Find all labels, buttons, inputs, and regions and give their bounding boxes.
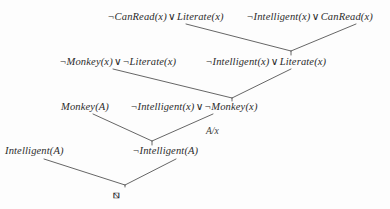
negation-icon: ¬ [206,56,213,67]
disjunction-icon: ∨ [167,11,177,22]
literal-canread-x: CanRead(x) [115,11,167,22]
disjunction-icon: ∨ [311,11,321,22]
edge-intelligent-literate-to-junction2 [232,69,291,98]
edge-intelligent-a-to-junction4 [44,159,125,185]
literal-monkey-a: Monkey(A) [61,101,109,112]
literal-literate-x: Literate(x) [280,56,327,67]
negation-icon: ¬ [108,11,115,22]
clause-intelligent-literate: ¬Intelligent(x)∨Literate(x) [206,57,326,68]
negation-icon: ¬ [123,56,130,67]
literal-intelligent-x: Intelligent(x) [254,11,311,22]
clause-canread-literate: ¬CanRead(x)∨Literate(x) [108,12,224,23]
clause-intelligent-monkey: ¬Intelligent(x)∨¬Monkey(x) [131,102,258,113]
literal-literate-x: Literate(x) [177,11,224,22]
substitution-label: A/x [206,126,219,136]
edge-intelligent-monkey-to-junction3 [152,114,213,141]
edge-monkey-literate-to-junction2 [113,69,232,98]
negation-icon: ¬ [131,101,138,112]
clause-intelligent-canread: ¬Intelligent(x)∨CanRead(x) [247,12,373,23]
literal-canread-x: CanRead(x) [321,11,373,22]
literal-intelligent-a: Intelligent(A) [140,145,199,156]
literal-literate-x: Literate(x) [130,56,177,67]
literal-intelligent-x: Intelligent(x) [213,56,270,67]
clause-intelligent-a: Intelligent(A) [5,146,64,157]
edge-canread-to-junction1 [186,24,291,51]
negation-icon: ¬ [60,56,67,67]
literal-intelligent-x: Intelligent(x) [138,101,195,112]
clause-not-intelligent-a: ¬Intelligent(A) [133,146,198,157]
clause-monkey-literate: ¬Monkey(x)∨¬Literate(x) [60,57,176,68]
disjunction-icon: ∨ [113,56,123,67]
literal-monkey-x: Monkey(x) [67,56,113,67]
disjunction-icon: ∨ [195,101,205,112]
disjunction-icon: ∨ [270,56,280,67]
negation-icon: ¬ [133,145,140,156]
literal-intelligent-a: Intelligent(A) [5,145,64,156]
negation-icon: ¬ [247,11,254,22]
clause-monkey-a: Monkey(A) [61,102,109,113]
resolution-proof-figure: ¬CanRead(x)∨Literate(x) ¬Intelligent(x)∨… [0,0,390,209]
edge-monkey-a-to-junction3 [93,114,152,141]
edge-intelligent-canread-to-junction1 [291,24,356,51]
edge-not-intelligent-a-to-junction4 [125,159,176,185]
empty-clause-symbol: ⧅ [113,188,119,201]
literal-monkey-x: Monkey(x) [211,101,257,112]
